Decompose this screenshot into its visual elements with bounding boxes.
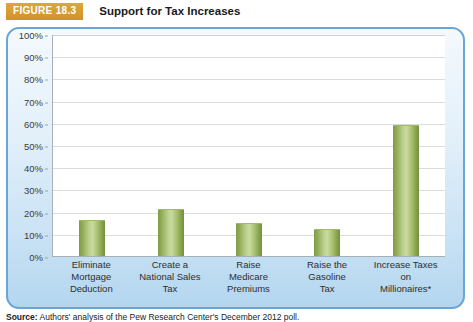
x-axis-category-line: Raise [210,259,287,271]
x-axis-category-label: Increase TaxesonMillionaires* [366,259,445,295]
y-axis-tick-mark [45,80,48,81]
x-axis-category-line: Eliminate [53,259,130,271]
plot-area [52,35,445,257]
y-axis-tick-text: 0% [29,252,43,263]
y-axis: 100%90%80%70%60%50%40%30%20%10%0% [12,35,48,257]
y-axis-tick-text: 100% [19,30,43,41]
bar[interactable] [393,125,419,256]
y-axis-tick-label: 50% [12,141,48,152]
y-axis-tick-mark [45,213,48,214]
source-note-text: Authors' analysis of the Pew Research Ce… [38,312,300,322]
x-axis-category-label: Create aNational SalesTax [131,259,210,295]
source-note: Source: Authors' analysis of the Pew Res… [6,312,466,322]
bar-slot [288,35,366,256]
chart-inner: 100%90%80%70%60%50%40%30%20%10%0% Elimin… [8,29,463,307]
bars-layer [53,35,445,256]
y-axis-tick-text: 50% [24,141,43,152]
x-axis-category-line: Raise the [289,259,366,271]
y-axis-tick-mark [45,169,48,170]
bar[interactable] [314,229,340,256]
chart-panel: 100%90%80%70%60%50%40%30%20%10%0% Elimin… [6,27,465,309]
x-axis-category-label: Raise theGasolineTax [288,259,367,295]
y-axis-tick-text: 30% [24,185,43,196]
bar-slot [53,35,131,256]
x-axis-category-line: Create a [132,259,209,271]
x-axis-category-line: Tax [132,283,209,295]
y-axis-tick-label: 100% [12,30,48,41]
x-axis-category-line: Gasoline [289,271,366,283]
y-axis-tick-mark [45,257,48,258]
figure-title: Support for Tax Increases [99,5,240,17]
bar-slot [367,35,445,256]
x-axis-category-line: Deduction [53,283,130,295]
y-axis-tick-text: 80% [24,74,43,85]
bar[interactable] [236,223,262,256]
x-axis-category-line: National Sales [132,271,209,283]
figure-number-badge: FIGURE 18.3 [6,3,83,20]
y-axis-tick-mark [45,35,48,36]
y-axis-tick-mark [45,146,48,147]
y-axis-tick-mark [45,124,48,125]
x-axis-category-line: Premiums [210,283,287,295]
y-axis-tick-text: 20% [24,207,43,218]
x-axis-category-line: Millionaires* [367,283,444,295]
y-axis-tick-label: 30% [12,185,48,196]
x-axis-category-label: RaiseMedicarePremiums [209,259,288,295]
x-axis-category-label: EliminateMortgageDeduction [52,259,131,295]
y-axis-tick-label: 20% [12,207,48,218]
figure-header: FIGURE 18.3 Support for Tax Increases [0,0,473,22]
y-axis-tick-text: 10% [24,229,43,240]
y-axis-tick-label: 40% [12,163,48,174]
y-axis-tick-mark [45,235,48,236]
x-axis-category-line: Tax [289,283,366,295]
bar-slot [131,35,209,256]
y-axis-tick-mark [45,102,48,103]
y-axis-tick-text: 70% [24,96,43,107]
bar[interactable] [79,220,105,256]
y-axis-tick-label: 60% [12,118,48,129]
y-axis-tick-label: 10% [12,229,48,240]
x-axis: EliminateMortgageDeductionCreate aNation… [52,259,445,295]
y-axis-tick-label: 70% [12,96,48,107]
bar-slot [210,35,288,256]
x-axis-category-line: on [367,271,444,283]
y-axis-tick-text: 40% [24,163,43,174]
bar[interactable] [158,209,184,256]
y-axis-tick-text: 60% [24,118,43,129]
source-note-prefix: Source: [6,312,38,322]
y-axis-tick-label: 80% [12,74,48,85]
x-axis-category-line: Mortgage [53,271,130,283]
y-axis-tick-mark [45,191,48,192]
x-axis-category-line: Medicare [210,271,287,283]
x-axis-category-line: Increase Taxes [367,259,444,271]
y-axis-tick-mark [45,58,48,59]
y-axis-tick-label: 90% [12,52,48,63]
y-axis-tick-text: 90% [24,52,43,63]
y-axis-tick-label: 0% [12,252,48,263]
